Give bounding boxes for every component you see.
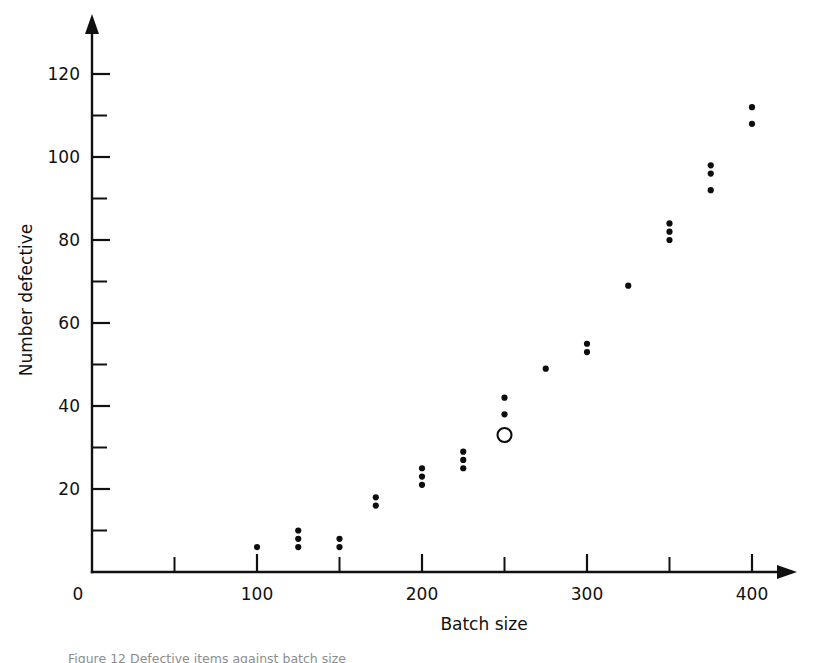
data-point bbox=[749, 104, 755, 110]
axes-group bbox=[85, 14, 797, 579]
data-point bbox=[460, 465, 466, 471]
data-point bbox=[666, 229, 672, 235]
data-point bbox=[543, 366, 549, 372]
y-axis-arrowhead bbox=[85, 14, 99, 34]
x-tick-label-0: 0 bbox=[73, 584, 84, 604]
y-tick-label-100: 100 bbox=[48, 147, 80, 167]
data-point bbox=[501, 411, 507, 417]
data-point bbox=[708, 187, 714, 193]
data-point bbox=[708, 162, 714, 168]
y-tick-label-120: 120 bbox=[48, 64, 80, 84]
data-point bbox=[419, 473, 425, 479]
y-tick-label-20: 20 bbox=[58, 479, 80, 499]
x-tick-label-200: 200 bbox=[406, 584, 438, 604]
data-point bbox=[460, 457, 466, 463]
data-point bbox=[336, 544, 342, 550]
x-tick-label-300: 300 bbox=[571, 584, 603, 604]
data-point bbox=[295, 536, 301, 542]
data-points-layer bbox=[254, 104, 755, 550]
data-point bbox=[584, 349, 590, 355]
data-point bbox=[749, 121, 755, 127]
data-point bbox=[666, 237, 672, 243]
data-point bbox=[666, 220, 672, 226]
data-point bbox=[254, 544, 260, 550]
y-tick-label-40: 40 bbox=[58, 396, 80, 416]
data-point bbox=[373, 494, 379, 500]
data-point-open bbox=[498, 428, 512, 442]
x-axis-arrowhead bbox=[777, 565, 797, 579]
x-axis-tick-labels: 0 100 200 300 400 bbox=[73, 584, 769, 604]
x-axis-ticks bbox=[175, 554, 753, 572]
data-point bbox=[419, 465, 425, 471]
x-tick-label-100: 100 bbox=[241, 584, 273, 604]
data-point bbox=[584, 341, 590, 347]
data-point bbox=[295, 544, 301, 550]
data-point bbox=[625, 283, 631, 289]
data-point bbox=[336, 536, 342, 542]
data-point bbox=[295, 527, 301, 533]
data-point bbox=[373, 503, 379, 509]
x-axis-title: Batch size bbox=[440, 614, 527, 634]
data-point bbox=[501, 395, 507, 401]
data-point bbox=[708, 171, 714, 177]
figure-caption: Figure 12 Defective items against batch … bbox=[68, 652, 768, 663]
data-point bbox=[419, 482, 425, 488]
y-tick-label-60: 60 bbox=[58, 313, 80, 333]
y-axis-tick-labels: 20 40 60 80 100 120 bbox=[48, 64, 80, 499]
data-point bbox=[460, 449, 466, 455]
y-axis-ticks bbox=[92, 74, 110, 531]
y-tick-label-80: 80 bbox=[58, 230, 80, 250]
y-axis-title: Number defective bbox=[16, 224, 36, 377]
x-tick-label-400: 400 bbox=[736, 584, 768, 604]
